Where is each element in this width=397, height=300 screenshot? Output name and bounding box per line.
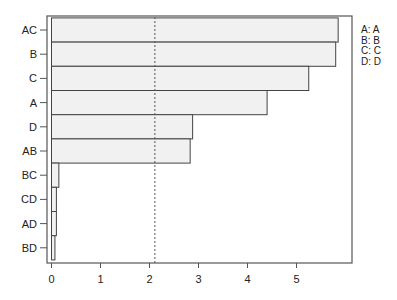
bar-b bbox=[52, 42, 336, 66]
y-tick-label: BD bbox=[22, 242, 37, 254]
y-tick-label: A bbox=[30, 97, 38, 109]
y-tick-label: AD bbox=[22, 218, 37, 230]
y-tick-label: BC bbox=[22, 169, 37, 181]
y-tick-label: D bbox=[29, 121, 37, 133]
y-tick-label: B bbox=[30, 48, 37, 60]
bar-d bbox=[52, 115, 193, 139]
x-tick-label: 2 bbox=[146, 273, 152, 285]
bar-a bbox=[52, 91, 268, 115]
legend-entry: D: D bbox=[361, 57, 381, 68]
y-tick-label: CD bbox=[21, 193, 37, 205]
bar-bd bbox=[52, 236, 55, 260]
x-tick-label: 4 bbox=[244, 273, 250, 285]
y-tick-label: C bbox=[29, 72, 37, 84]
x-tick-label: 3 bbox=[195, 273, 201, 285]
x-tick-label: 1 bbox=[97, 273, 103, 285]
bar-cd bbox=[52, 187, 57, 211]
pareto-chart: ACBCADABBCCDADBD012345 bbox=[0, 0, 397, 300]
bar-bc bbox=[52, 163, 59, 187]
bar-ab bbox=[52, 139, 191, 163]
bar-c bbox=[52, 66, 309, 90]
y-tick-label: AC bbox=[22, 24, 37, 36]
y-tick-label: AB bbox=[22, 145, 37, 157]
x-tick-label: 0 bbox=[48, 273, 54, 285]
x-tick-label: 5 bbox=[293, 273, 299, 285]
bar-ac bbox=[52, 18, 339, 42]
bar-ad bbox=[52, 212, 57, 236]
legend: A: A B: B C: C D: D bbox=[361, 25, 381, 67]
